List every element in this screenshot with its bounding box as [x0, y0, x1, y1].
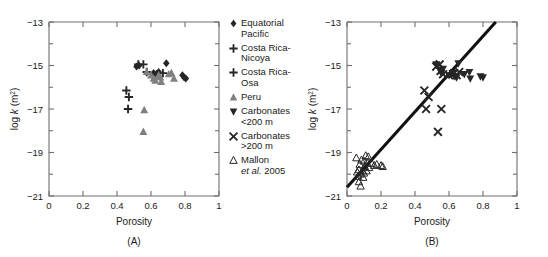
svg-text:0: 0 [46, 200, 51, 211]
plus-icon [228, 43, 241, 54]
panel-b-plot: 00.20.40.60.81−21−19−17−15−13 Porosity (… [298, 0, 548, 257]
filled-down-triangle-icon [228, 106, 241, 117]
svg-text:−21: −21 [325, 191, 341, 202]
panel-b: 00.20.40.60.81−21−19−17−15−13 Porosity (… [298, 0, 548, 257]
panel-a-y-axis-title: log k (m2) [9, 88, 21, 131]
panel-a-tick-labels: 00.20.40.60.81−21−19−17−15−13 [27, 17, 222, 212]
open-up-triangle-icon [228, 155, 241, 166]
legend-item-label-line2: et al. 2005 [241, 166, 285, 177]
legend-item-label: Peru [241, 92, 261, 103]
panel-a-x-axis-title: Porosity [116, 216, 152, 227]
svg-text:0.2: 0.2 [76, 200, 89, 211]
svg-text:−15: −15 [325, 60, 341, 71]
legend-item-label: Costa Rica-Nicoya [241, 43, 291, 64]
legend-item-label-line1: Peru [241, 91, 261, 102]
legend-item-label-line1: Carbonates [241, 105, 290, 116]
legend-item-label: Carbonates>200 m [241, 131, 290, 152]
data-point [420, 87, 428, 95]
legend-item: Mallonet al. 2005 [228, 155, 306, 176]
legend-item-label-line2: Nicoya [241, 53, 291, 64]
legend-item: Carbonates>200 m [228, 131, 306, 152]
data-point [437, 105, 445, 113]
data-point [357, 182, 364, 189]
legend-item: EquatorialPacific [228, 18, 306, 39]
legend-item-label-line2: Osa [241, 78, 291, 89]
svg-text:0.4: 0.4 [408, 200, 421, 211]
svg-text:−13: −13 [325, 17, 341, 28]
data-point [466, 75, 474, 82]
panel-b-data-points [353, 60, 487, 189]
panel-a-label: (A) [127, 236, 140, 247]
svg-text:0: 0 [344, 200, 349, 211]
svg-text:0.2: 0.2 [374, 200, 387, 211]
svg-text:0.6: 0.6 [442, 200, 455, 211]
data-point [124, 105, 132, 113]
legend-item-label-line1: Costa Rica- [241, 66, 291, 77]
filled-up-triangle-icon [228, 92, 241, 103]
cross-x-icon [228, 131, 241, 142]
svg-text:−17: −17 [325, 104, 341, 115]
legend-item-label-line2: <200 m [241, 117, 290, 128]
legend-item-label-line1: Costa Rica- [241, 42, 291, 53]
panel-a: 00.20.40.60.81−21−19−17−15−13 Porosity (… [0, 0, 250, 257]
filled-diamond-icon [228, 18, 241, 29]
svg-text:0.6: 0.6 [144, 200, 157, 211]
panel-a-plot: 00.20.40.60.81−21−19−17−15−13 Porosity (… [0, 0, 250, 257]
svg-text:0.8: 0.8 [178, 200, 191, 211]
panel-b-tick-labels: 00.20.40.60.81−21−19−17−15−13 [325, 17, 520, 212]
legend-item-label: Mallonet al. 2005 [241, 155, 285, 176]
svg-text:1: 1 [514, 200, 519, 211]
svg-text:log k (m2): log k (m2) [307, 88, 319, 131]
data-point [139, 128, 147, 135]
legend-item-label: EquatorialPacific [241, 18, 284, 39]
figure-permeability-porosity: 00.20.40.60.81−21−19−17−15−13 Porosity (… [0, 0, 548, 257]
legend-item: Costa Rica-Osa [228, 67, 306, 88]
legend-item-label: Carbonates<200 m [241, 106, 290, 127]
svg-text:log k (m2): log k (m2) [9, 88, 21, 131]
legend-item-label-line1: Mallon [241, 154, 269, 165]
svg-text:0.8: 0.8 [476, 200, 489, 211]
panel-b-y-axis-title: log k (m2) [307, 88, 319, 131]
legend-item-label-line1: Carbonates [241, 130, 290, 141]
plus-icon [228, 67, 241, 78]
data-point [163, 59, 170, 67]
svg-text:1: 1 [216, 200, 221, 211]
legend-item: Peru [228, 92, 306, 103]
data-point [140, 106, 148, 113]
legend-item-label-line2: >200 m [241, 141, 290, 152]
legend-item-label: Costa Rica-Osa [241, 67, 291, 88]
panel-a-axes [49, 22, 219, 196]
svg-text:−19: −19 [325, 147, 341, 158]
legend-item: Costa Rica-Nicoya [228, 43, 306, 64]
panel-b-x-axis-title: Porosity [414, 216, 450, 227]
svg-text:0.4: 0.4 [110, 200, 123, 211]
svg-text:−15: −15 [27, 60, 43, 71]
svg-text:−19: −19 [27, 147, 43, 158]
panel-b-label: (B) [425, 236, 438, 247]
legend: EquatorialPacificCosta Rica-NicoyaCosta … [228, 18, 306, 180]
panel-a-data-points [122, 59, 189, 135]
legend-item-label-line2: Pacific [241, 29, 284, 40]
data-point [422, 105, 430, 113]
svg-text:−13: −13 [27, 17, 43, 28]
legend-item: Carbonates<200 m [228, 106, 306, 127]
legend-item-label-line1: Equatorial [241, 17, 284, 28]
data-point [434, 128, 442, 136]
svg-text:−21: −21 [27, 191, 43, 202]
svg-text:−17: −17 [27, 104, 43, 115]
